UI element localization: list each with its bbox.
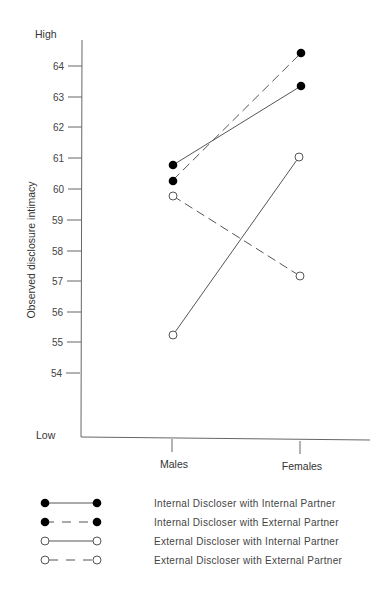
- legend-item: External Discloser with Internal Partner: [40, 535, 380, 554]
- x-label-males: Males: [160, 458, 188, 470]
- point-open: [295, 153, 303, 161]
- legend-swatch-open-dashed-icon: [40, 554, 110, 568]
- y-tick-61: 61: [53, 153, 82, 164]
- series-internal-internal: [169, 82, 306, 170]
- y-tick-57: 57: [52, 276, 81, 287]
- y-tick-59: 59: [52, 215, 81, 226]
- svg-text:63: 63: [53, 92, 65, 103]
- svg-text:55: 55: [52, 337, 64, 348]
- svg-text:62: 62: [53, 122, 65, 133]
- legend: Internal Discloser with Internal Partner…: [40, 497, 380, 573]
- point-open: [169, 192, 177, 200]
- svg-text:57: 57: [52, 276, 64, 287]
- legend-item: Internal Discloser with Internal Partner: [40, 497, 380, 516]
- y-axis-high-label: High: [35, 28, 57, 40]
- series-internal-external: [169, 49, 306, 186]
- y-tick-62: 62: [53, 122, 82, 133]
- line-chart: High Low Observed disclosure intimacy 64…: [0, 0, 390, 490]
- y-tick-54: 54: [51, 368, 80, 379]
- point-filled: [169, 177, 178, 186]
- y-tick-56: 56: [52, 307, 81, 318]
- svg-text:56: 56: [52, 307, 64, 318]
- y-axis: [81, 40, 82, 437]
- svg-text:60: 60: [53, 184, 65, 195]
- y-tick-64: 64: [53, 61, 82, 72]
- point-open: [296, 272, 304, 280]
- x-label-females: Females: [282, 460, 322, 472]
- legend-label: Internal Discloser with External Partner: [154, 517, 339, 528]
- legend-swatch-open-solid-icon: [40, 535, 110, 549]
- y-ticks: 64 63 62 61 60 59 58 57 56 55 54: [51, 61, 82, 379]
- y-axis-low-label: Low: [36, 429, 56, 441]
- svg-text:58: 58: [52, 246, 64, 257]
- y-tick-58: 58: [52, 246, 81, 257]
- y-axis-title: Observed disclosure intimacy: [25, 181, 37, 319]
- y-tick-55: 55: [52, 337, 81, 348]
- point-open: [169, 331, 177, 339]
- legend-label: Internal Discloser with Internal Partner: [154, 498, 336, 509]
- point-filled: [169, 161, 178, 170]
- legend-swatch-filled-solid-icon: [40, 497, 110, 511]
- series-external-external: [169, 192, 304, 280]
- y-tick-60: 60: [53, 184, 82, 195]
- series-external-internal: [169, 153, 303, 339]
- point-filled: [297, 49, 306, 58]
- legend-item: External Discloser with External Partner: [40, 554, 380, 573]
- point-filled: [297, 82, 306, 91]
- legend-label: External Discloser with Internal Partner: [154, 536, 339, 547]
- legend-item: Internal Discloser with External Partner: [40, 516, 380, 535]
- svg-text:64: 64: [53, 61, 65, 72]
- legend-swatch-filled-dashed-icon: [40, 516, 110, 530]
- svg-text:54: 54: [51, 368, 63, 379]
- legend-label: External Discloser with External Partner: [154, 555, 342, 566]
- svg-text:61: 61: [53, 153, 65, 164]
- y-tick-63: 63: [53, 92, 82, 103]
- x-axis: [81, 437, 370, 440]
- svg-text:59: 59: [52, 215, 64, 226]
